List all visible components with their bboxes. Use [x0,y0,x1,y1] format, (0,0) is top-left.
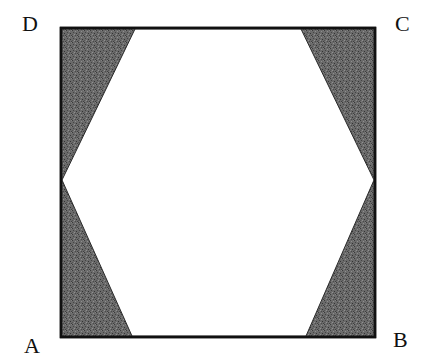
label-a: A [24,335,40,357]
label-d: D [22,13,38,35]
geometry-figure: D C A B [0,0,436,360]
label-c: C [395,13,410,35]
square-hexagon-diagram [0,0,436,360]
label-b: B [393,329,408,351]
